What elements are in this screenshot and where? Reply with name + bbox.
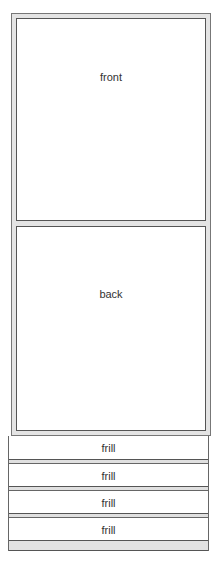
frill-divider [9, 487, 208, 491]
frill-strip-1: frill [9, 436, 208, 460]
front-panel-label: front [17, 71, 205, 83]
frill-strip-3: frill [9, 492, 208, 514]
frill-strip-2: frill [9, 465, 208, 487]
frill-label-1: frill [9, 442, 208, 454]
frill-label-3: frill [9, 497, 208, 509]
back-panel: back [16, 226, 206, 431]
back-panel-label: back [17, 288, 205, 300]
frill-strip-4: frill [9, 519, 208, 541]
front-panel: front [16, 18, 206, 221]
frill-label-4: frill [9, 524, 208, 536]
frill-label-2: frill [9, 470, 208, 482]
frill-divider [9, 514, 208, 518]
frill-divider [9, 460, 208, 464]
frill-stack: frill frill frill frill [8, 436, 209, 551]
bottom-hem-strip [9, 541, 208, 551]
